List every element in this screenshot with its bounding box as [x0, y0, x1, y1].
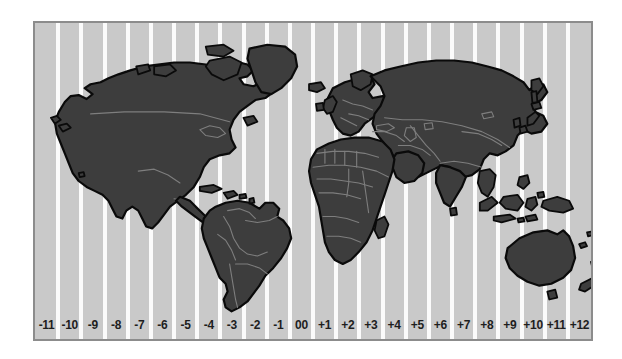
timezone-divider--10 — [56, 23, 60, 339]
utc-offset-label-+11: +11 — [545, 318, 568, 332]
timezone-band--8[interactable] — [105, 23, 128, 339]
utc-offset-label-+1: +1 — [313, 318, 336, 332]
timezone-band-+6[interactable] — [429, 23, 452, 339]
utc-offset-label-00: 00 — [290, 318, 313, 332]
timezone-band-+12[interactable] — [568, 23, 591, 339]
utc-offset-label--5: -5 — [174, 318, 197, 332]
timezone-band-+5[interactable] — [406, 23, 429, 339]
utc-offset-label-+8: +8 — [475, 318, 498, 332]
timezone-band--4[interactable] — [197, 23, 220, 339]
timezone-divider-+12 — [566, 23, 570, 339]
timezone-band-+4[interactable] — [383, 23, 406, 339]
timezone-band--10[interactable] — [58, 23, 81, 339]
timezone-divider-+9 — [496, 23, 500, 339]
utc-offset-label--10: -10 — [58, 318, 81, 332]
map-frame: -11-10-9-8-7-6-5-4-3-2-100+1+2+3+4+5+6+7… — [33, 21, 593, 341]
timezone-band--2[interactable] — [244, 23, 267, 339]
utc-offset-label--9: -9 — [81, 318, 104, 332]
utc-offset-label--8: -8 — [105, 318, 128, 332]
timezone-divider-+3 — [357, 23, 361, 339]
timezone-band-+9[interactable] — [498, 23, 521, 339]
timezone-divider--7 — [126, 23, 130, 339]
world-timezone-map-figure: -11-10-9-8-7-6-5-4-3-2-100+1+2+3+4+5+6+7… — [0, 0, 622, 359]
timezone-band--3[interactable] — [220, 23, 243, 339]
timezone-band-+1[interactable] — [313, 23, 336, 339]
utc-offset-label-+4: +4 — [383, 318, 406, 332]
utc-offset-label-+5: +5 — [406, 318, 429, 332]
utc-offset-label-+3: +3 — [359, 318, 382, 332]
utc-offset-label--3: -3 — [220, 318, 243, 332]
timezone-band-+11[interactable] — [545, 23, 568, 339]
utc-offset-label-+2: +2 — [336, 318, 359, 332]
utc-offset-label--7: -7 — [128, 318, 151, 332]
utc-offset-label--4: -4 — [197, 318, 220, 332]
timezone-band--6[interactable] — [151, 23, 174, 339]
utc-offset-label-+7: +7 — [452, 318, 475, 332]
timezone-band--7[interactable] — [128, 23, 151, 339]
timezone-band--1[interactable] — [267, 23, 290, 339]
timezone-divider--4 — [195, 23, 199, 339]
timezone-band-layer — [35, 23, 591, 339]
utc-offset-label-+6: +6 — [429, 318, 452, 332]
timezone-band--11[interactable] — [35, 23, 58, 339]
timezone-divider--9 — [79, 23, 83, 339]
timezone-divider-+7 — [450, 23, 454, 339]
timezone-band--5[interactable] — [174, 23, 197, 339]
utc-offset-label--6: -6 — [151, 318, 174, 332]
timezone-divider-+11 — [543, 23, 547, 339]
timezone-divider-+2 — [334, 23, 338, 339]
timezone-divider--2 — [242, 23, 246, 339]
timezone-divider--8 — [103, 23, 107, 339]
timezone-band-+3[interactable] — [359, 23, 382, 339]
timezone-band-+7[interactable] — [452, 23, 475, 339]
timezone-band-00[interactable] — [290, 23, 313, 339]
utc-offset-label--2: -2 — [244, 318, 267, 332]
utc-offset-label--11: -11 — [35, 318, 58, 332]
utc-offset-label-+9: +9 — [498, 318, 521, 332]
timezone-divider-00 — [288, 23, 292, 339]
timezone-divider-+4 — [381, 23, 385, 339]
timezone-divider-+10 — [520, 23, 524, 339]
timezone-band-+8[interactable] — [475, 23, 498, 339]
timezone-band--9[interactable] — [81, 23, 104, 339]
timezone-divider--3 — [218, 23, 222, 339]
timezone-band-+10[interactable] — [522, 23, 545, 339]
utc-offset-label-band: -11-10-9-8-7-6-5-4-3-2-100+1+2+3+4+5+6+7… — [35, 303, 591, 339]
timezone-divider-+5 — [404, 23, 408, 339]
timezone-band-+2[interactable] — [336, 23, 359, 339]
utc-offset-label-+12: +12 — [568, 318, 591, 332]
timezone-divider-+8 — [473, 23, 477, 339]
timezone-divider-+6 — [427, 23, 431, 339]
timezone-divider--1 — [265, 23, 269, 339]
timezone-divider--6 — [149, 23, 153, 339]
utc-offset-label--1: -1 — [267, 318, 290, 332]
utc-offset-label-+10: +10 — [522, 318, 545, 332]
timezone-divider--5 — [172, 23, 176, 339]
timezone-divider-+1 — [311, 23, 315, 339]
